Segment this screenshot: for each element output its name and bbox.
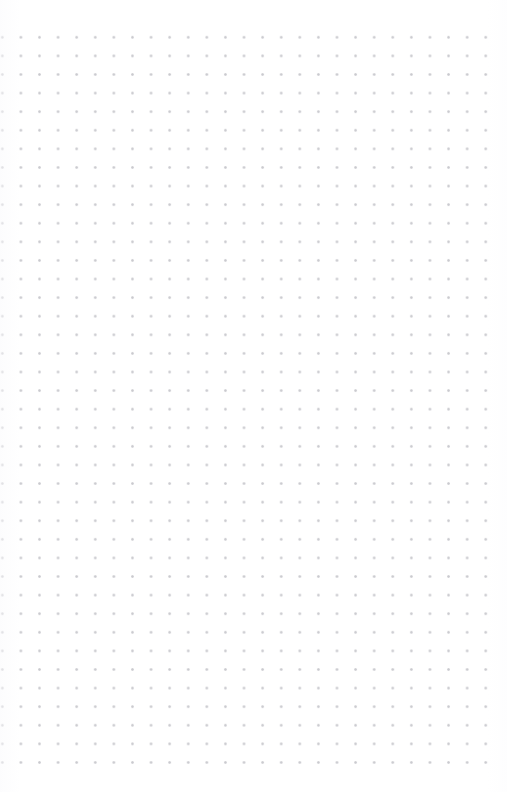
notebook-page	[0, 0, 507, 792]
dot-grid	[0, 28, 495, 772]
